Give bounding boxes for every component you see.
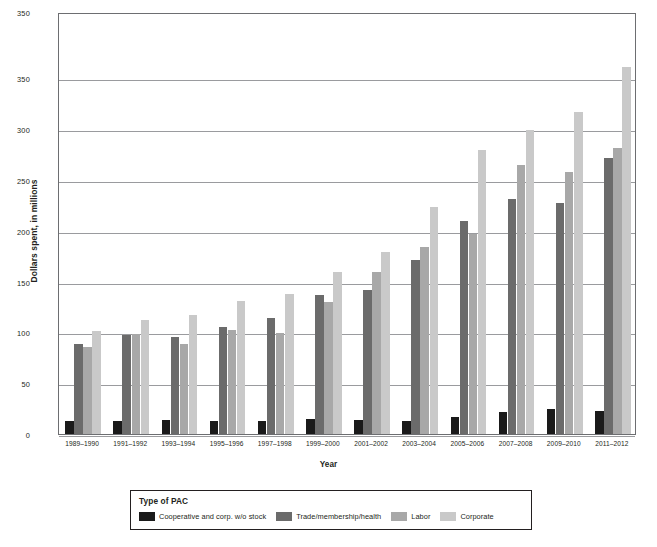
bar — [171, 337, 180, 434]
bar — [237, 301, 246, 434]
bar — [333, 272, 342, 434]
bar — [65, 421, 74, 434]
bar — [381, 252, 390, 434]
legend-item[interactable]: Corporate — [440, 512, 493, 521]
bar — [372, 272, 381, 434]
bar — [306, 419, 315, 434]
x-axis-title: Year — [0, 460, 657, 469]
bar — [565, 172, 574, 434]
bar — [122, 335, 131, 434]
x-axis-tick-label: 1995–1996 — [201, 440, 253, 447]
bar — [411, 260, 420, 434]
bar — [354, 420, 363, 434]
legend-item[interactable]: Trade/membership/health — [276, 512, 381, 521]
bar — [315, 295, 324, 434]
y-axis-tick-label: 100 — [0, 329, 30, 338]
x-axis-tick-label: 1997–1998 — [249, 440, 301, 447]
bar — [210, 421, 219, 434]
y-axis-tick-label: 50 — [0, 380, 30, 389]
bar-group — [402, 12, 438, 434]
bar-group — [547, 12, 583, 434]
legend-swatch-icon — [276, 512, 292, 521]
x-axis-tick-label: 1991–1992 — [104, 440, 156, 447]
y-axis-tick-label: 0 — [0, 431, 30, 440]
bar — [604, 158, 613, 434]
bar — [622, 67, 631, 434]
bar — [162, 420, 171, 434]
legend-swatch-icon — [139, 512, 155, 521]
bar — [132, 334, 141, 434]
x-axis-tick-label: 1989–1990 — [56, 440, 108, 447]
bar — [451, 417, 460, 434]
bar — [285, 294, 294, 434]
bar — [219, 327, 228, 434]
bar — [180, 344, 189, 435]
bar — [595, 411, 604, 434]
legend-label: Corporate — [460, 512, 493, 521]
x-axis-tick-label: 2001–2002 — [345, 440, 397, 447]
y-axis-tick-label: 150 — [0, 279, 30, 288]
bar-group — [306, 12, 342, 434]
plot-area — [58, 13, 636, 435]
legend-title: Type of PAC — [139, 496, 523, 506]
bar-group — [113, 12, 149, 434]
x-axis-tick-label: 1993–1994 — [152, 440, 204, 447]
bar — [420, 247, 429, 434]
y-axis-title: Dollars spent, in millions — [29, 131, 39, 331]
bar — [276, 333, 285, 434]
bar — [74, 344, 83, 435]
bar — [460, 221, 469, 435]
bar-group — [162, 12, 198, 434]
gridline — [59, 436, 635, 437]
legend-swatch-icon — [391, 512, 407, 521]
chart-figure: Dollars spent, in millions 3503503002502… — [0, 0, 657, 547]
bar — [92, 331, 101, 434]
bar — [258, 421, 267, 434]
bar — [517, 165, 526, 435]
bar-group — [499, 12, 535, 434]
y-axis-tick-label: 250 — [0, 177, 30, 186]
bar-group — [595, 12, 631, 434]
bar — [189, 315, 198, 434]
bar-group — [451, 12, 487, 434]
x-axis-tick-label: 2007–2008 — [490, 440, 542, 447]
bar — [574, 112, 583, 434]
bar — [499, 412, 508, 434]
y-axis-tick-label: 350 — [0, 9, 30, 18]
legend-label: Trade/membership/health — [296, 512, 381, 521]
bar — [267, 318, 276, 434]
y-axis-tick-label: 350 — [0, 75, 30, 84]
bar — [324, 302, 333, 434]
y-axis-tick-label: 200 — [0, 228, 30, 237]
legend-label: Cooperative and corp. w/o stock — [159, 512, 266, 521]
bar-group — [258, 12, 294, 434]
bar — [402, 421, 411, 434]
bar — [141, 320, 150, 434]
bar — [526, 130, 535, 434]
bar — [613, 148, 622, 434]
bar-group — [65, 12, 101, 434]
bar — [508, 199, 517, 434]
y-axis-tick-label: 300 — [0, 126, 30, 135]
bar — [556, 203, 565, 434]
x-axis-tick-label: 2009–2010 — [538, 440, 590, 447]
x-axis-tick-label: 1999–2000 — [297, 440, 349, 447]
legend-item[interactable]: Cooperative and corp. w/o stock — [139, 512, 266, 521]
bar — [363, 290, 372, 434]
bar — [228, 330, 237, 434]
bar — [430, 207, 439, 434]
bar-series-layer — [59, 14, 635, 434]
bar — [469, 234, 478, 434]
legend-swatch-icon — [440, 512, 456, 521]
legend-items: Cooperative and corp. w/o stockTrade/mem… — [139, 512, 523, 521]
bar — [83, 347, 92, 435]
legend: Type of PAC Cooperative and corp. w/o st… — [130, 490, 532, 530]
bar-group — [354, 12, 390, 434]
x-axis-tick-label: 2003–2004 — [393, 440, 445, 447]
legend-label: Labor — [411, 512, 430, 521]
legend-item[interactable]: Labor — [391, 512, 430, 521]
bar-group — [210, 12, 246, 434]
x-axis-tick-label: 2011–2012 — [586, 440, 638, 447]
bar — [478, 150, 487, 434]
x-axis-tick-label: 2005–2006 — [441, 440, 493, 447]
